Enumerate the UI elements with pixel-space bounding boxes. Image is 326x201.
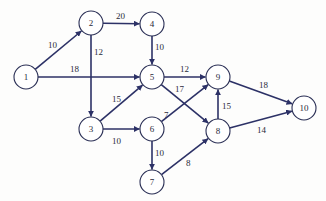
node-label: 6 xyxy=(150,124,155,134)
node-6: 6 xyxy=(140,117,164,141)
node-label: 1 xyxy=(24,72,29,82)
edge-weight-label: 20 xyxy=(116,11,126,21)
edge-weight-label: 12 xyxy=(94,47,103,57)
node-8: 8 xyxy=(206,119,230,143)
node-10: 10 xyxy=(292,96,316,120)
node-1: 1 xyxy=(14,65,38,89)
edge-weight-label: 14 xyxy=(257,125,267,135)
edge-weight-label: 8 xyxy=(186,158,191,168)
network-diagram: 1018201210151012177108151814 12345678910 xyxy=(0,0,326,201)
node-label: 9 xyxy=(216,72,221,82)
edge-weight-label: 18 xyxy=(70,64,80,74)
node-9: 9 xyxy=(206,65,230,89)
node-label: 10 xyxy=(300,103,310,113)
edge-weight-label: 15 xyxy=(112,94,122,104)
node-4: 4 xyxy=(140,12,164,36)
edge-7-8 xyxy=(162,139,209,175)
edge-weight-label: 10 xyxy=(48,40,58,50)
node-2: 2 xyxy=(79,11,103,35)
edge-weight-label: 10 xyxy=(112,136,122,146)
node-label: 4 xyxy=(150,19,155,29)
node-label: 2 xyxy=(89,18,94,28)
node-label: 3 xyxy=(89,124,94,134)
nodes-layer: 12345678910 xyxy=(14,11,316,194)
node-3: 3 xyxy=(79,117,103,141)
edge-weight-label: 10 xyxy=(155,148,165,158)
edge-3-5 xyxy=(100,85,142,121)
node-label: 8 xyxy=(216,126,221,136)
edge-weight-label: 12 xyxy=(180,64,189,74)
edge-weight-label: 7 xyxy=(164,110,169,120)
node-label: 5 xyxy=(150,72,155,82)
edge-weight-label: 10 xyxy=(155,42,165,52)
edge-weight-label: 18 xyxy=(259,80,269,90)
node-label: 7 xyxy=(150,177,155,187)
edge-weight-label: 15 xyxy=(222,101,232,111)
network-graph: 1018201210151012177108151814 12345678910 xyxy=(0,0,326,201)
edge-2-4 xyxy=(103,23,140,24)
node-5: 5 xyxy=(140,65,164,89)
node-7: 7 xyxy=(140,170,164,194)
edge-weight-label: 17 xyxy=(175,84,185,94)
